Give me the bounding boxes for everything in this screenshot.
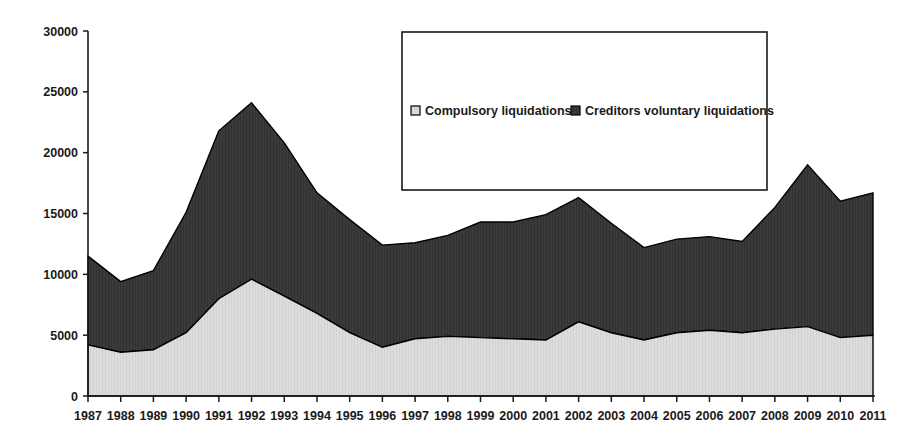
light-square-swatch [411, 106, 420, 115]
x-axis-tick-label: 2005 [663, 409, 691, 423]
x-axis-tick-label: 2011 [859, 409, 886, 423]
x-axis-tick-label: 2000 [499, 409, 527, 423]
chart-canvas: 050001000015000200002500030000 198719881… [0, 0, 915, 442]
y-axis-tick-label: 15000 [43, 207, 78, 221]
x-axis-tick-label: 1988 [107, 409, 135, 423]
y-axis-tick-label: 5000 [50, 329, 78, 343]
x-axis-tick-label: 1991 [205, 409, 233, 423]
y-axis-tick-label: 20000 [43, 146, 78, 160]
x-axis-tick-label: 2008 [761, 409, 789, 423]
legend-label-creditors: Creditors voluntary liquidations [585, 104, 774, 118]
x-axis-tick-label: 1989 [140, 409, 168, 423]
area-chart-figure: 050001000015000200002500030000 198719881… [0, 0, 915, 442]
x-axis-tick-label: 2004 [630, 409, 658, 423]
x-axis-tick-label: 1996 [368, 409, 396, 423]
y-axis-tick-label: 30000 [43, 25, 78, 39]
legend-entry-compulsory[interactable]: Compulsory liquidations [411, 104, 572, 118]
legend-entry-creditors[interactable]: Creditors voluntary liquidations [571, 104, 774, 118]
x-axis-tick-label: 2003 [597, 409, 625, 423]
x-axis-tick-label: 2002 [565, 409, 593, 423]
chart-legend: Compulsory liquidations Creditors volunt… [402, 32, 774, 190]
x-axis-tick-label: 1999 [467, 409, 495, 423]
x-axis-tick-label: 1997 [401, 409, 429, 423]
x-axis-tick-label: 1987 [74, 409, 102, 423]
x-axis-tick-label: 2009 [794, 409, 822, 423]
x-axis-tick-label: 1990 [172, 409, 200, 423]
x-axis-tick-label: 2001 [532, 409, 560, 423]
x-axis-tick-label: 1998 [434, 409, 462, 423]
x-axis-tick-label: 2010 [826, 409, 854, 423]
dark-square-swatch [571, 106, 580, 115]
x-axis-tick-label: 1992 [238, 409, 266, 423]
x-axis-tick-label: 2007 [728, 409, 756, 423]
legend-label-compulsory: Compulsory liquidations [425, 104, 572, 118]
x-axis-tick-label: 1994 [303, 409, 331, 423]
x-axis-tick-label: 1995 [336, 409, 364, 423]
y-axis-tick-label: 10000 [43, 268, 78, 282]
x-axis-tick-label: 1993 [270, 409, 298, 423]
y-axis-tick-label: 25000 [43, 85, 78, 99]
y-axis-tick-label: 0 [71, 390, 78, 404]
x-axis-tick-label: 2006 [696, 409, 724, 423]
